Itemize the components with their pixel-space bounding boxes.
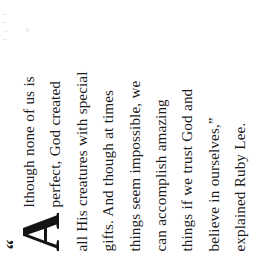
pull-quote: “ A lthough none of us is perfect, God c… (16, 17, 254, 251)
scanned-page: “ A lthough none of us is perfect, God c… (0, 0, 278, 269)
quote-line-7: things if we trust God and (174, 17, 200, 251)
quote-line-6: can accomplish amazing (148, 17, 174, 251)
open-quote-mark: “ (4, 239, 24, 249)
quote-attribution: explained Ruby Lee. (227, 17, 253, 251)
quote-line-8: believe in ourselves,” (201, 17, 227, 251)
quote-line-3: all His creatures with special (69, 17, 95, 251)
quote-line-4: gifts. And though at times (95, 17, 121, 251)
rotated-text-stage: “ A lthough none of us is perfect, God c… (0, 0, 278, 269)
quote-line-5: things seem impossible, we (122, 17, 148, 251)
